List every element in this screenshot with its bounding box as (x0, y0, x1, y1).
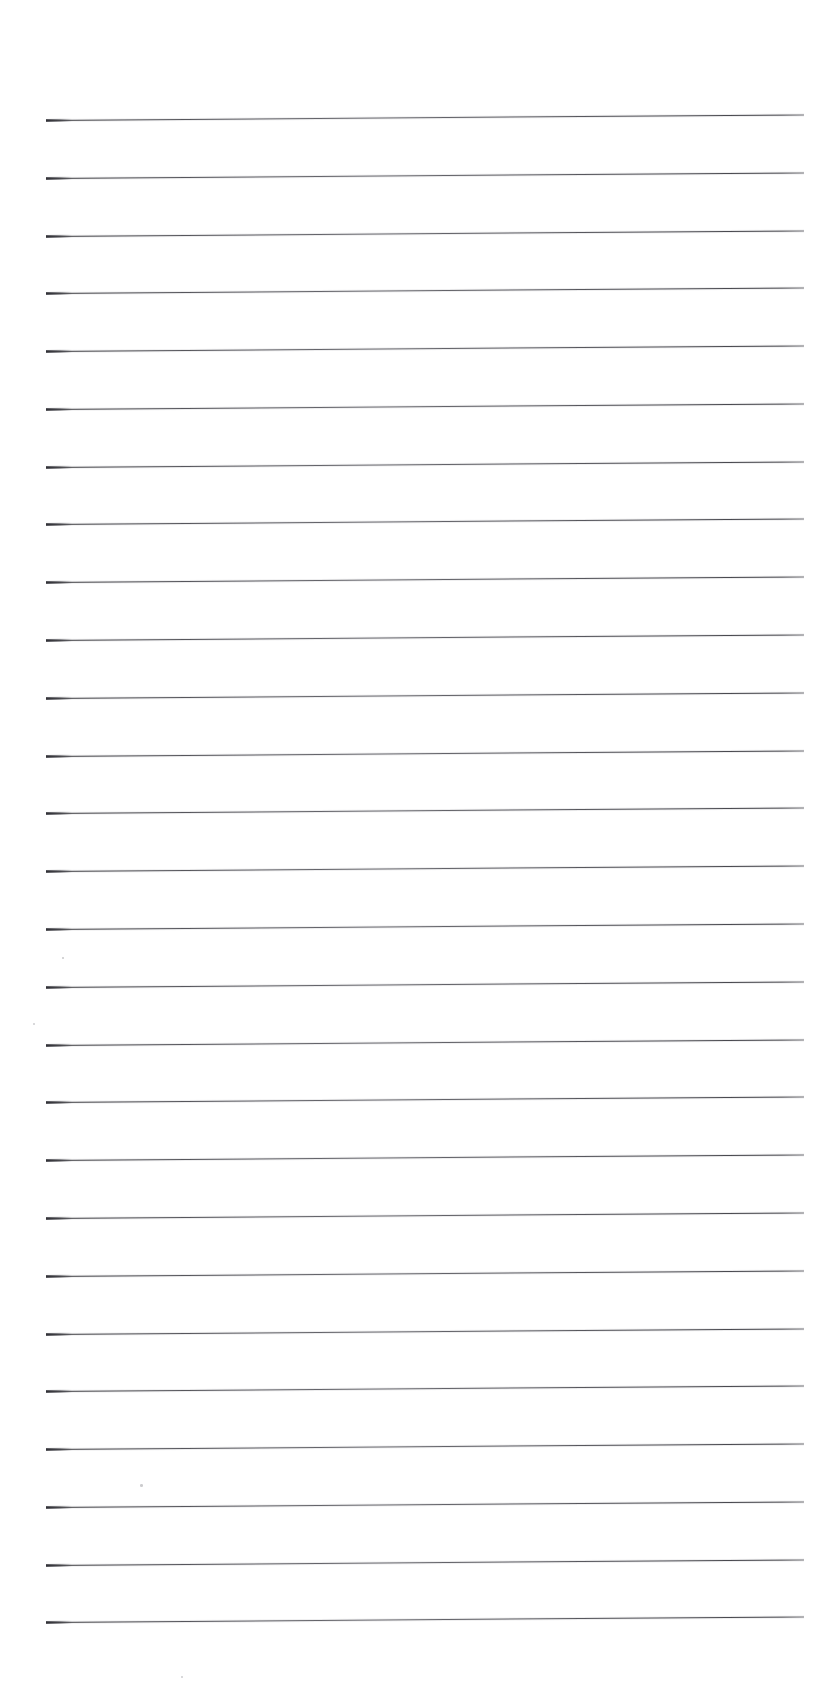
ruled-line-left-terminus (46, 1101, 72, 1104)
ruled-line (46, 634, 804, 640)
ruled-line-stroke (46, 692, 804, 699)
ruled-line-left-terminus (46, 292, 72, 295)
ruled-line (46, 576, 804, 582)
ruled-line-left-terminus (46, 177, 72, 180)
ruled-line-stroke (46, 807, 804, 814)
ruled-line-stroke (46, 1559, 804, 1566)
ruled-line-stroke (46, 1096, 804, 1103)
ruled-line-left-terminus (46, 119, 72, 122)
ruled-line-left-terminus (46, 408, 72, 411)
ruled-line-left-terminus (46, 581, 72, 584)
ruled-line (46, 345, 804, 351)
ruled-line-left-terminus (46, 1044, 72, 1047)
ruled-line (46, 287, 804, 293)
ruled-line (46, 923, 804, 929)
ruled-line-stroke (46, 172, 804, 179)
ruled-line-stroke (46, 1616, 804, 1623)
ruled-line-stroke (46, 1270, 804, 1277)
ruled-line (46, 1443, 804, 1449)
ruled-line-stroke (46, 461, 804, 468)
ruled-line-stroke (46, 750, 804, 757)
ruled-line (46, 1616, 804, 1622)
ruled-line (46, 1559, 804, 1565)
ruled-line-left-terminus (46, 870, 72, 873)
scan-speck (140, 1484, 143, 1487)
ruled-line-left-terminus (46, 1217, 72, 1220)
ruled-line-left-terminus (46, 1159, 72, 1162)
ruled-line-stroke (46, 114, 804, 121)
ruled-line-left-terminus (46, 1506, 72, 1509)
ruled-line-left-terminus (46, 1275, 72, 1278)
ruled-line-stroke (46, 1154, 804, 1161)
ruled-line (46, 692, 804, 698)
ruled-line (46, 403, 804, 409)
ruled-line-left-terminus (46, 812, 72, 815)
ruled-line-left-terminus (46, 1564, 72, 1567)
ruled-line (46, 172, 804, 178)
ruled-line (46, 461, 804, 467)
ruled-line (46, 1385, 804, 1391)
ruled-line-left-terminus (46, 466, 72, 469)
ruled-line (46, 750, 804, 756)
ruled-line-left-terminus (46, 639, 72, 642)
ruled-line (46, 1212, 804, 1218)
ruled-line-stroke (46, 981, 804, 988)
ruled-line-left-terminus (46, 523, 72, 526)
scan-speck (181, 1676, 183, 1678)
ruled-line-stroke (46, 1328, 804, 1335)
ruled-line (46, 1039, 804, 1045)
ruled-line-stroke (46, 1385, 804, 1392)
ruled-line-stroke (46, 403, 804, 410)
ruled-line (46, 807, 804, 813)
ruled-line-left-terminus (46, 1390, 72, 1393)
ruled-line (46, 114, 804, 120)
ruled-line (46, 981, 804, 987)
ruled-line-left-terminus (46, 755, 72, 758)
ruled-line-stroke (46, 345, 804, 352)
ruled-line-stroke (46, 230, 804, 237)
ruled-line-left-terminus (46, 1448, 72, 1451)
ruled-line-stroke (46, 1212, 804, 1219)
ruled-line-stroke (46, 576, 804, 583)
ruled-line-left-terminus (46, 350, 72, 353)
ruled-line-stroke (46, 923, 804, 930)
ruled-line (46, 1328, 804, 1334)
ruled-line-stroke (46, 865, 804, 872)
ruled-line-left-terminus (46, 1621, 72, 1624)
ruled-line-left-terminus (46, 235, 72, 238)
scan-speck (33, 1023, 35, 1025)
ruled-line (46, 1096, 804, 1102)
ruled-line-stroke (46, 518, 804, 525)
ruled-line-stroke (46, 1501, 804, 1508)
ruled-line (46, 1154, 804, 1160)
paper-surface (0, 0, 840, 1700)
ruled-line-stroke (46, 287, 804, 294)
ruled-line-stroke (46, 1443, 804, 1450)
ruled-line-left-terminus (46, 1333, 72, 1336)
scanned-page (0, 0, 840, 1700)
ruled-line (46, 1501, 804, 1507)
ruled-line (46, 518, 804, 524)
ruled-line-stroke (46, 1039, 804, 1046)
scan-speck (62, 957, 64, 959)
ruled-line (46, 1270, 804, 1276)
ruled-line-stroke (46, 634, 804, 641)
ruled-line (46, 865, 804, 871)
ruled-line-left-terminus (46, 986, 72, 989)
ruled-line-left-terminus (46, 697, 72, 700)
ruled-line (46, 230, 804, 236)
ruled-line-left-terminus (46, 928, 72, 931)
